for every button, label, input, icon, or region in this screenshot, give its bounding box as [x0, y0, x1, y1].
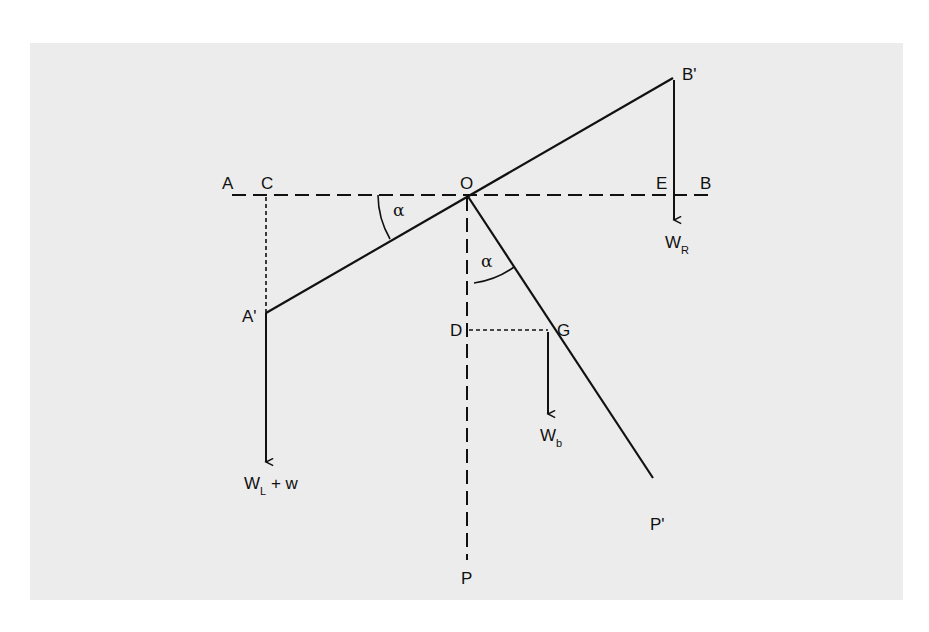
- label-p-prime: P': [650, 515, 665, 534]
- label-d: D: [450, 321, 462, 340]
- angle-arc-bottom: [474, 267, 514, 283]
- force-label-left: WL + w: [244, 474, 299, 497]
- angle-arc-top: [378, 195, 390, 239]
- force-label-right: WR: [665, 233, 689, 256]
- label-b-prime: B': [682, 65, 697, 84]
- label-c: C: [261, 174, 273, 193]
- label-b: B: [700, 174, 711, 193]
- label-e: E: [656, 174, 667, 193]
- label-a-prime: A': [242, 307, 257, 326]
- angle-alpha-top: α: [393, 200, 405, 220]
- label-p: P: [461, 569, 472, 588]
- label-a: A: [222, 174, 234, 193]
- label-o: O: [460, 174, 473, 193]
- angle-alpha-bottom: α: [481, 251, 493, 271]
- force-label-beam: Wb: [540, 426, 562, 449]
- label-g: G: [557, 321, 570, 340]
- balance-diagram: A C O E B B' A' D G P P' α α WL + w WR W…: [0, 0, 929, 632]
